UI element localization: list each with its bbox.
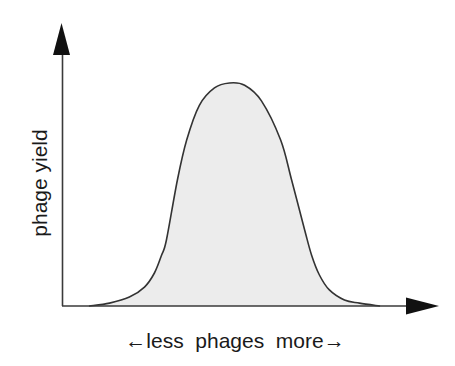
chart: ←less phages more→ phage yield bbox=[0, 0, 455, 366]
x-axis-arrowhead-icon bbox=[406, 298, 439, 315]
y-axis-label: phage yield bbox=[28, 129, 51, 236]
y-axis-arrowhead-icon bbox=[53, 23, 70, 55]
plot-area bbox=[90, 83, 380, 306]
curve-fill-area bbox=[90, 83, 380, 306]
x-axis-label: ←less phages more→ bbox=[125, 329, 344, 352]
